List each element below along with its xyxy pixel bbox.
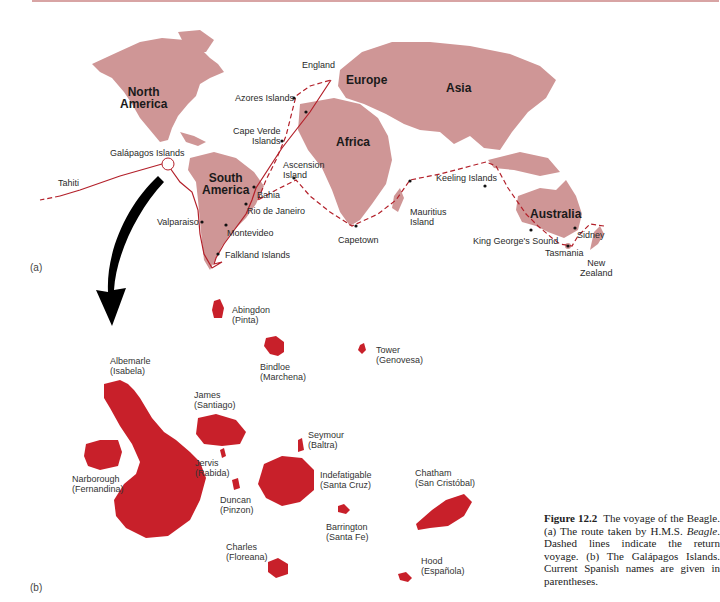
island-narborough <box>84 440 122 470</box>
label-asia: Asia <box>446 82 471 94</box>
island-hood <box>398 572 412 582</box>
label-rio: Rio de Janeiro <box>247 206 305 216</box>
label-falkland: Falkland Islands <box>225 250 290 260</box>
label-keeling: Keeling Islands <box>436 173 497 183</box>
island-label-hood: Hood(Española) <box>421 556 465 576</box>
island-bindloe <box>264 336 284 356</box>
panel-label-b: (b) <box>30 582 42 593</box>
label-galapagos: Galápagos Islands <box>110 148 185 158</box>
label-tahiti: Tahiti <box>58 178 79 188</box>
label-mauritius: MauritiusIsland <box>410 207 447 227</box>
island-jervis <box>220 448 226 458</box>
island-label-indefatigable: Indefatigable(Santa Cruz) <box>320 470 372 490</box>
island-barrington <box>338 504 350 514</box>
island-label-charles: Charles(Floreana) <box>226 542 268 562</box>
island-label-abingdon: Abingdon(Pinta) <box>232 305 270 325</box>
label-new-zealand: NewZealand <box>580 258 613 278</box>
curved-arrow-icon <box>96 176 164 326</box>
label-tasmania: Tasmania <box>545 248 584 258</box>
label-south-america: SouthAmerica <box>202 172 249 196</box>
figure-number: Figure 12.2 <box>544 512 597 524</box>
island-james <box>196 414 246 446</box>
label-africa: Africa <box>336 136 370 148</box>
island-charles <box>268 558 288 578</box>
island-label-james: James(Santiago) <box>194 390 236 410</box>
label-europe: Europe <box>346 74 387 86</box>
label-king-georges-sound: King George's Sound <box>473 236 558 246</box>
galapagos-islands-shapes <box>84 299 472 582</box>
panel-label-a: (a) <box>30 262 42 273</box>
label-australia: Australia <box>530 208 581 220</box>
label-cape-verde: Cape VerdeIslands <box>233 126 281 146</box>
label-capetown: Capetown <box>338 235 379 245</box>
label-azores: Azores Islands <box>235 93 294 103</box>
label-bahia: Bahia <box>257 190 280 200</box>
island-label-seymour: Seymour(Baltra) <box>308 430 344 450</box>
island-seymour <box>298 438 304 452</box>
island-label-albemarle: Albemarle(Isabela) <box>110 356 151 376</box>
galapagos-marker <box>162 158 174 170</box>
label-north-america: NorthAmerica <box>120 86 167 110</box>
island-label-narborough: Narborough(Fernandina) <box>72 474 124 494</box>
figure-caption: Figure 12.2 The voyage of the Beagle. (a… <box>544 512 720 588</box>
island-label-barrington: Barrington(Santa Fe) <box>326 522 369 542</box>
island-duncan <box>232 478 240 490</box>
island-indefatigable <box>258 456 314 506</box>
label-ascension: AscensionIsland <box>283 160 325 180</box>
island-label-chatham: Chatham(San Cristóbal) <box>415 468 475 488</box>
island-abingdon <box>212 299 224 318</box>
label-england: England <box>302 60 335 70</box>
island-label-tower: Tower(Genovesa) <box>376 345 423 365</box>
label-montevideo: Montevideo <box>227 228 274 238</box>
island-tower <box>358 343 366 354</box>
label-sidney: Sidney <box>577 230 605 240</box>
island-label-jervis: Jervis(Rabida) <box>195 458 230 478</box>
label-valparaiso: Valparaiso <box>157 217 199 227</box>
island-label-duncan: Duncan(Pinzon) <box>220 495 254 515</box>
island-label-bindloe: Bindloe(Marchena) <box>260 362 306 382</box>
island-chatham <box>416 494 472 530</box>
